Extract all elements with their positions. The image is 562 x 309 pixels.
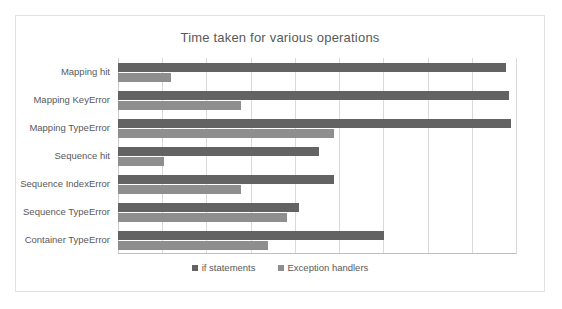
legend-label: Exception handlers [288,262,369,273]
bar-1 [118,129,334,138]
bar-0 [118,119,511,128]
legend-swatch-icon [192,265,198,271]
bar-row [118,58,516,86]
gridline [516,58,517,254]
category-label: Sequence IndexError [20,178,110,189]
bar-1 [118,213,287,222]
bar-1 [118,73,171,82]
category-axis-labels: Mapping hitMapping KeyErrorMapping TypeE… [16,58,118,254]
bar-1 [118,185,241,194]
bar-row [118,114,516,142]
plot-area [118,58,516,254]
bar-0 [118,147,319,156]
bar-1 [118,101,241,110]
bar-row [118,142,516,170]
bar-row [118,86,516,114]
legend-swatch-icon [278,265,284,271]
category-label: Sequence TypeError [23,206,110,217]
bar-row [118,226,516,254]
category-label: Sequence hit [55,150,110,161]
bar-0 [118,91,509,100]
bar-1 [118,241,268,250]
category-label: Mapping hit [61,66,110,77]
legend-label: if statements [202,262,256,273]
bar-0 [118,175,334,184]
chart-title: Time taken for various operations [16,30,544,45]
bar-row [118,170,516,198]
bar-0 [118,203,299,212]
chart-container: Time taken for various operations Mappin… [15,15,545,292]
value-axis-baseline [118,253,516,254]
category-label: Mapping TypeError [29,122,110,133]
bar-0 [118,231,384,240]
bar-row [118,198,516,226]
bar-0 [118,63,506,72]
chart-legend: if statementsException handlers [16,262,544,273]
category-label: Mapping KeyError [33,94,110,105]
legend-item[interactable]: if statements [192,262,256,273]
category-label: Container TypeError [25,234,110,245]
bar-1 [118,157,164,166]
legend-item[interactable]: Exception handlers [278,262,369,273]
